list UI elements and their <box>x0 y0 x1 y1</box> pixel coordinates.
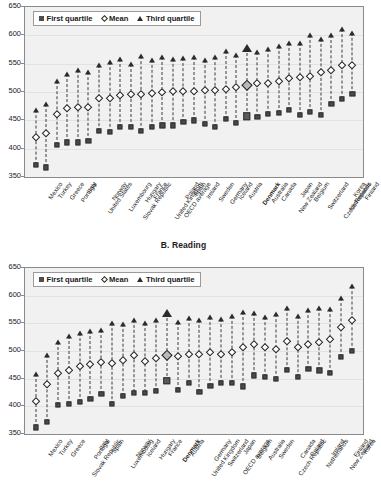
plot-area-panel-b <box>24 267 364 435</box>
mean-marker <box>228 348 236 356</box>
third-quartile-marker <box>327 306 333 311</box>
first-quartile-marker <box>219 380 224 385</box>
third-quartile-marker <box>305 307 311 312</box>
first-quartile-marker <box>350 91 355 96</box>
mean-marker <box>253 79 261 87</box>
first-quartile-marker <box>223 117 228 122</box>
first-quartile-marker <box>230 380 235 385</box>
mean-marker <box>32 133 40 141</box>
mean-marker <box>65 366 73 374</box>
y-axis-tick-label: 450 <box>8 374 21 382</box>
third-quartile-marker <box>223 48 229 53</box>
third-quartile-marker <box>55 339 61 344</box>
first-quartile-marker <box>276 110 281 115</box>
x-axis-labels-panel-b: MexicoTurkeyGreeceSlovak RepublicPortuga… <box>24 438 364 499</box>
first-quartile-marker <box>54 143 59 148</box>
third-quartile-marker <box>109 320 115 325</box>
first-quartile-marker <box>191 118 196 123</box>
third-quartile-marker <box>349 284 355 289</box>
first-quartile-marker <box>251 373 256 378</box>
mean-marker <box>201 86 209 94</box>
third-quartile-marker <box>254 49 260 54</box>
first-quartile-marker <box>202 121 207 126</box>
first-quartile-marker <box>273 376 278 381</box>
first-quartile-marker <box>99 392 104 397</box>
x-axis-tick-label: Austria <box>189 438 205 458</box>
mean-marker <box>232 83 240 91</box>
mean-marker <box>74 103 82 111</box>
third-quartile-marker <box>212 54 218 59</box>
third-quartile-marker <box>117 57 123 62</box>
legend-label-mean: Mean <box>109 275 128 284</box>
first-quartile-marker <box>339 96 344 101</box>
mean-marker <box>84 103 92 111</box>
third-quartile-marker <box>297 41 303 46</box>
third-quartile-marker <box>159 55 165 60</box>
third-quartile-marker <box>318 37 324 42</box>
third-quartile-marker <box>107 59 113 64</box>
first-quartile-marker <box>262 374 267 379</box>
panel-b-reading: 350400450500550600650 First quartile Mea… <box>0 253 367 499</box>
range-connector-line <box>320 39 321 114</box>
third-quartile-marker <box>276 43 282 48</box>
first-quartile-marker <box>86 139 91 144</box>
third-quartile-marker <box>43 101 49 106</box>
legend-panel-b: First quartile Mean Third quartile <box>33 272 201 287</box>
mean-marker <box>43 380 51 388</box>
mean-marker <box>130 351 138 359</box>
first-quartile-marker <box>329 101 334 106</box>
first-quartile-marker <box>175 388 180 393</box>
third-quartile-marker <box>307 32 313 37</box>
third-quartile-marker <box>284 306 290 311</box>
first-quartile-marker <box>110 401 115 406</box>
first-quartile-marker <box>142 390 147 395</box>
first-quartile-marker <box>208 383 213 388</box>
mean-marker <box>239 343 247 351</box>
x-axis-labels-panel-a: MexicoTurkeyGreecePortugalItalyUnited St… <box>24 181 364 243</box>
first-quartile-marker <box>318 112 323 117</box>
first-quartile-marker <box>88 396 93 401</box>
mean-marker <box>242 80 253 91</box>
mean-marker <box>296 73 304 81</box>
third-quartile-marker <box>338 295 344 300</box>
third-quartile-marker <box>273 312 279 317</box>
third-quartile-marker <box>286 41 292 46</box>
third-quartile-marker <box>75 67 81 72</box>
third-quartile-marker <box>349 30 355 35</box>
third-quartile-marker <box>162 309 172 317</box>
mean-marker <box>32 397 40 405</box>
mean-marker <box>108 359 116 367</box>
y-axis-tick-label: 650 <box>8 2 21 10</box>
range-connector-line <box>46 355 47 421</box>
y-axis-tick-label: 450 <box>8 116 21 124</box>
gridline <box>25 323 363 324</box>
first-quartile-marker <box>297 112 302 117</box>
first-quartile-marker <box>197 389 202 394</box>
third-quartile-marker <box>44 353 50 358</box>
mean-marker <box>275 77 283 85</box>
third-quartile-marker <box>240 310 246 315</box>
first-quartile-marker <box>33 425 38 430</box>
first-quartile-marker <box>295 374 300 379</box>
mean-marker <box>326 335 334 343</box>
legend-panel-a: First quartile Mean Third quartile <box>33 11 201 26</box>
mean-marker <box>315 338 323 346</box>
legend-label-first-quartile: First quartile <box>47 275 93 284</box>
x-axis-tick-label: Italy <box>86 181 98 194</box>
mean-marker <box>119 356 127 364</box>
legend-label-third-quartile: Third quartile <box>146 275 195 284</box>
mean-marker <box>337 323 345 331</box>
third-quartile-marker <box>202 57 208 62</box>
first-quartile-marker <box>186 380 191 385</box>
mean-marker <box>42 129 50 137</box>
mean-marker <box>190 87 198 95</box>
third-quartile-marker <box>96 62 102 67</box>
first-quartile-marker <box>240 384 245 389</box>
third-quartile-marker <box>207 314 213 319</box>
third-quartile-marker <box>87 328 93 333</box>
mean-marker <box>179 87 187 95</box>
legend-item-mean: Mean <box>102 14 129 23</box>
y-axis-tick-label: 550 <box>8 319 21 327</box>
first-quartile-marker <box>286 108 291 113</box>
